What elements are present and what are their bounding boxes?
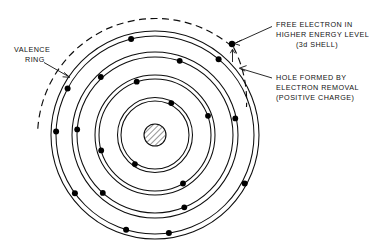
electron-dot <box>132 161 138 167</box>
hole-leader-line <box>239 66 272 78</box>
electron-dot <box>98 148 104 154</box>
electron-dot <box>177 58 183 64</box>
electron-dot <box>65 86 71 92</box>
atomic-shell-diagram: VALENCE RING FREE ELECTRON IN HIGHER ENE… <box>0 0 380 252</box>
electron-dot <box>205 113 211 119</box>
valence-leader-line <box>44 63 70 78</box>
free-electron-leader-line <box>234 27 272 46</box>
electron-dot <box>181 204 187 210</box>
diagram-canvas: VALENCE RING FREE ELECTRON IN HIGHER ENE… <box>0 0 380 252</box>
free-electron-up-arrow <box>230 49 234 62</box>
electron-dot <box>72 190 78 196</box>
free-electron-label: FREE ELECTRON IN HIGHER ENERGY LEVEL (3d… <box>276 20 369 49</box>
electron-dot <box>242 181 248 187</box>
electron-dot <box>123 227 129 233</box>
hole-label-line-3: (POSITIVE CHARGE) <box>276 93 354 102</box>
valence-ring-label-line-2: RING <box>25 55 45 64</box>
valence-ring-label-line-1: VALENCE <box>14 45 50 54</box>
valence-ring-label: VALENCE RING <box>14 45 50 64</box>
hole-label-line-1: HOLE FORMED BY <box>276 73 347 82</box>
electron-dot <box>100 190 106 196</box>
electron-dot <box>232 116 238 122</box>
nucleus <box>144 124 166 146</box>
free-electron-label-line-1: FREE ELECTRON IN <box>276 20 353 29</box>
hole-label: HOLE FORMED BY ELECTRON REMOVAL (POSITIV… <box>276 73 359 102</box>
electron-dot <box>180 181 186 187</box>
electron-dot <box>134 79 140 85</box>
free-electron-label-line-3: (3d SHELL) <box>296 40 338 49</box>
electron-dot <box>74 126 80 132</box>
electron-dot <box>168 100 174 106</box>
electron-dot <box>53 129 59 135</box>
electron-dot <box>98 74 104 80</box>
free-electron-label-line-2: HIGHER ENERGY LEVEL <box>276 30 369 39</box>
electron-dot <box>166 230 172 236</box>
shell-5-free-dashed-arc-upper <box>38 18 231 128</box>
electron-dot <box>128 36 134 42</box>
hole-label-line-2: ELECTRON REMOVAL <box>276 83 359 92</box>
electron-dot <box>216 56 222 62</box>
